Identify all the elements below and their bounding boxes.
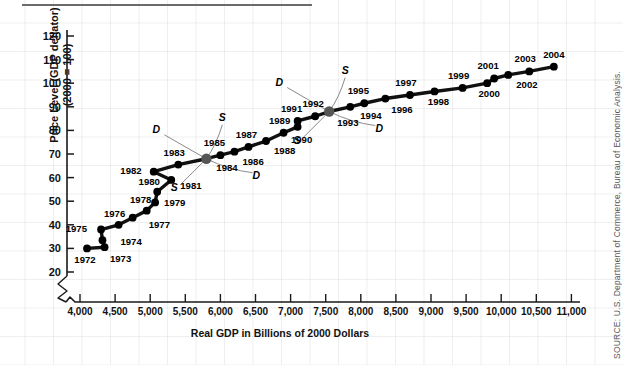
- sd-curves-layer: [164, 78, 375, 185]
- data-point: [525, 68, 533, 76]
- data-point-label: 1997: [395, 77, 416, 88]
- data-point: [245, 143, 253, 151]
- x-tick-label: 4,000: [67, 306, 92, 317]
- y-tick-label: 100: [43, 77, 61, 89]
- data-point-label: 1999: [448, 70, 469, 81]
- data-point: [324, 106, 334, 116]
- y-tick-label: 80: [49, 124, 61, 136]
- x-tick-label: 6,500: [243, 306, 268, 317]
- data-point: [406, 91, 414, 99]
- data-point: [129, 214, 137, 222]
- y-tick-label: 50: [49, 195, 61, 207]
- demand-curve-label: D: [375, 122, 383, 134]
- data-point-label: 1981: [180, 180, 202, 191]
- data-point-label: 2000: [478, 88, 499, 99]
- data-point-label: 1984: [216, 162, 238, 173]
- x-tick-label: 8,000: [348, 306, 373, 317]
- data-point: [294, 117, 302, 125]
- data-point-label: 1980: [139, 176, 160, 187]
- data-point-label: 2004: [543, 49, 565, 60]
- data-point: [174, 161, 182, 169]
- data-point: [151, 198, 159, 206]
- data-point-label: 1996: [391, 104, 412, 115]
- data-point-label: 1976: [104, 208, 125, 219]
- y-tick-label: 90: [49, 101, 61, 113]
- demand-curve-label: D: [153, 123, 161, 135]
- data-point-label: 1992: [302, 98, 323, 109]
- data-point-label: 1993: [337, 117, 358, 128]
- data-point-label: 1985: [204, 137, 226, 148]
- x-tick-label: 4,500: [103, 306, 128, 317]
- y-tick-label: 120: [43, 30, 61, 42]
- y-tick-label: 40: [49, 219, 61, 231]
- data-point-label: 1989: [269, 115, 290, 126]
- sd-annotation-labels-layer: DSSDDSSD: [153, 64, 384, 193]
- demand-curve-label: D: [253, 169, 261, 181]
- data-point-label: 2001: [478, 60, 500, 71]
- data-point: [115, 221, 123, 229]
- data-point-label: 1986: [242, 156, 263, 167]
- data-point: [483, 79, 491, 87]
- data-point-label: 1988: [274, 145, 296, 156]
- supply-curve-label: S: [342, 64, 349, 76]
- x-tick-label: 11,000: [556, 306, 586, 317]
- data-point: [217, 151, 225, 159]
- data-point-label: 1973: [110, 253, 131, 264]
- data-point-label: 1991: [281, 103, 303, 114]
- data-point: [99, 236, 107, 244]
- data-point-label: 1998: [428, 96, 450, 107]
- data-point: [346, 103, 354, 111]
- x-tick-label: 6,000: [208, 306, 233, 317]
- data-point: [153, 188, 161, 196]
- data-point-label: 1978: [130, 194, 152, 205]
- data-point: [143, 207, 151, 215]
- data-point: [262, 137, 270, 145]
- data-point-label: 1994: [360, 110, 382, 121]
- supply-curve-label: S: [171, 181, 178, 193]
- data-point-label: 1977: [149, 219, 170, 230]
- data-point: [83, 245, 91, 253]
- data-point: [490, 75, 498, 83]
- data-point-label: 1972: [74, 254, 95, 265]
- x-tick-label: 5,500: [173, 306, 198, 317]
- demand-curve-label: D: [275, 76, 283, 88]
- x-tick-label: 9,000: [418, 306, 443, 317]
- y-tick-label: 60: [49, 172, 61, 184]
- x-tick-label: 8,500: [383, 306, 408, 317]
- data-point: [97, 226, 105, 234]
- supply-curve-label: S: [294, 134, 301, 146]
- data-point: [360, 99, 368, 107]
- data-point-label: 2002: [516, 79, 537, 90]
- y-tick-label: 70: [49, 148, 61, 160]
- chart-plot-area: 20304050607080901001101204,0004,5005,000…: [0, 0, 623, 365]
- x-tick-label: 10,000: [486, 306, 517, 317]
- data-point-label: 1979: [164, 197, 185, 208]
- y-tick-label: 110: [43, 54, 61, 66]
- data-point: [550, 63, 558, 71]
- data-point: [101, 243, 109, 251]
- data-point: [201, 154, 211, 164]
- data-point: [459, 84, 467, 92]
- data-point: [431, 88, 439, 96]
- data-point-label: 1974: [120, 236, 142, 247]
- x-tick-label: 10,500: [521, 306, 552, 317]
- y-tick-label: 30: [49, 242, 61, 254]
- data-point-label: 1983: [164, 147, 185, 158]
- data-point-label: 2003: [515, 53, 536, 64]
- data-point-label: 1982: [120, 165, 141, 176]
- data-point: [231, 148, 239, 156]
- x-tick-label: 5,000: [138, 306, 163, 317]
- data-point-label: 1995: [348, 85, 370, 96]
- data-point: [311, 112, 319, 120]
- data-point: [381, 95, 389, 103]
- x-tick-label: 7,000: [278, 306, 303, 317]
- x-tick-label: 9,500: [454, 306, 479, 317]
- data-point: [504, 71, 512, 79]
- data-point: [150, 168, 158, 176]
- y-tick-label: 20: [49, 266, 61, 278]
- data-point-label: 1987: [236, 129, 257, 140]
- supply-curve-label: S: [219, 111, 226, 123]
- data-point: [280, 129, 288, 137]
- data-point-label: 1975: [66, 223, 88, 234]
- x-tick-label: 7,500: [313, 306, 338, 317]
